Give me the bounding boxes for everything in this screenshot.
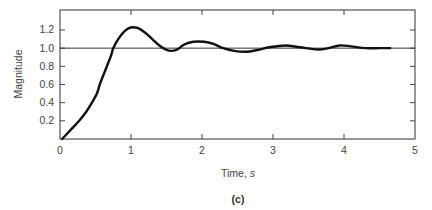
y-tick-label: 1.0 bbox=[39, 42, 54, 54]
x-tick-label: 2 bbox=[199, 144, 205, 156]
y-tick-label: 0.2 bbox=[39, 114, 54, 126]
y-axis-title: Magnitude bbox=[12, 49, 24, 98]
x-axis-title: Time, s bbox=[221, 167, 256, 179]
y-tick-label: 1.2 bbox=[39, 23, 54, 35]
y-tick-label: 0.8 bbox=[39, 60, 54, 72]
plot-frame bbox=[60, 10, 415, 139]
x-tick-label: 3 bbox=[270, 144, 276, 156]
y-axis: 0.20.40.60.81.01.2 bbox=[39, 23, 415, 126]
x-tick-label: 5 bbox=[412, 144, 418, 156]
x-tick-label: 0 bbox=[57, 144, 63, 156]
x-tick-label: 4 bbox=[341, 144, 347, 156]
figure-caption: (c) bbox=[232, 193, 245, 205]
step-response-chart: 012345 0.20.40.60.81.01.2 Magnitude Time… bbox=[0, 0, 432, 210]
y-tick-label: 0.4 bbox=[39, 96, 54, 108]
x-tick-label: 1 bbox=[128, 144, 134, 156]
step-response-curve bbox=[62, 27, 390, 139]
x-axis: 012345 bbox=[57, 10, 418, 156]
y-tick-label: 0.6 bbox=[39, 78, 54, 90]
plot-border bbox=[60, 10, 415, 139]
